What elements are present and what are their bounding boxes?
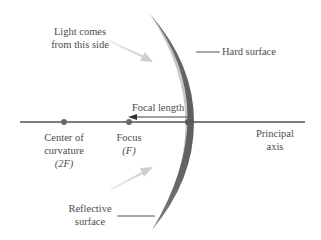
reflective-surface-label: Reflective surface (64, 202, 116, 228)
light-arrowhead-bottom-icon (140, 167, 153, 177)
center-of-curvature-point (61, 119, 67, 125)
light-arrow-bottom (110, 171, 146, 190)
vertex-point (185, 119, 191, 125)
principal-axis-label: Principal axis (250, 127, 300, 153)
focus-label: Focus (F) (111, 131, 147, 157)
light-source-label: Light comes from this side (40, 25, 120, 51)
focus-point (126, 119, 132, 125)
center-of-curvature-label: Center of curvature (2F) (36, 131, 92, 170)
focal-length-label: Focal length (132, 101, 184, 114)
hard-surface-label: Hard surface (222, 45, 276, 58)
